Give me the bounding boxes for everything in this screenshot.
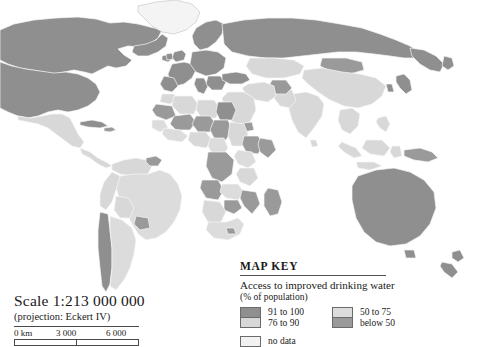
scale-bar-segment — [15, 340, 77, 345]
legend-label-50-75: 50 to 75 — [360, 307, 395, 317]
legend-swatch-91-100 — [241, 308, 260, 318]
scale-block: Scale 1:213 000 000 (projection: Eckert … — [14, 292, 174, 346]
map-key-units: (% of population) — [240, 292, 478, 303]
legend-swatch-group-right — [332, 307, 353, 328]
scale-tick-2: 6 000 — [106, 328, 126, 338]
scale-bar-segment — [77, 340, 138, 345]
legend-swatch-50-75 — [333, 308, 352, 318]
legend-swatch-no-data — [240, 336, 261, 347]
region-turkey — [222, 72, 250, 84]
map-key-subtitle: Access to improved drinking water — [240, 279, 478, 292]
legend-swatch-76-90 — [241, 318, 260, 327]
map-key-column-left: 91 to 100 76 to 90 — [240, 307, 304, 328]
legend-labels-left: 91 to 100 76 to 90 — [268, 307, 304, 328]
legend-label-no-data: no data — [268, 336, 296, 346]
region-lesotho — [226, 228, 236, 234]
legend-label-76-90: 76 to 90 — [268, 318, 304, 328]
map-key-classes: 91 to 100 76 to 90 50 to 75 below 50 — [240, 307, 478, 328]
scale-bar — [14, 339, 139, 346]
legend-label-below-50: below 50 — [360, 318, 395, 328]
map-key-column-right: 50 to 75 below 50 — [332, 307, 395, 328]
legend-label-91-100: 91 to 100 — [268, 307, 304, 317]
projection-label: (projection: Eckert IV) — [14, 311, 174, 322]
map-key-heading: MAP KEY — [240, 260, 478, 272]
region-egypt — [216, 102, 236, 120]
scale-tick-1: 3 000 — [56, 328, 76, 338]
scale-tick-labels: 0 km 3 000 6 000 — [14, 327, 139, 339]
region-ireland — [166, 53, 173, 60]
region-tasmania — [404, 250, 416, 258]
region-mali — [170, 114, 196, 130]
legend-row-no-data: no data — [240, 336, 478, 347]
scale-tick-0: 0 km — [14, 328, 32, 338]
scale-title: Scale 1:213 000 000 — [14, 292, 174, 309]
legend-swatch-group-left — [240, 307, 261, 328]
legend-labels-right: 50 to 75 below 50 — [360, 307, 395, 328]
legend-swatch-below-50 — [333, 318, 352, 327]
region-kazakhstan — [246, 58, 304, 78]
region-british-isles — [172, 50, 186, 62]
map-key-divider — [240, 275, 386, 276]
map-key: MAP KEY Access to improved drinking wate… — [240, 260, 478, 347]
